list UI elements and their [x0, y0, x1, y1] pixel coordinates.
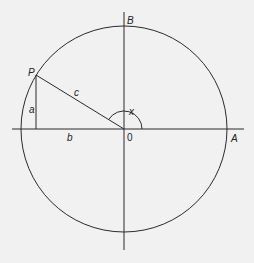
label-x: x [128, 106, 135, 117]
label-b-axis: B [127, 15, 134, 26]
label-a: a [29, 104, 35, 115]
label-c: c [74, 87, 79, 98]
label-a-axis: A [230, 133, 238, 144]
angle-x-arc [109, 111, 142, 129]
trig-circle-diagram: B P c a x b 0 A [0, 0, 254, 263]
label-origin: 0 [127, 132, 133, 143]
label-p: P [28, 67, 35, 78]
label-b-side: b [67, 132, 73, 143]
radius-op-hypotenuse-c [36, 75, 124, 129]
